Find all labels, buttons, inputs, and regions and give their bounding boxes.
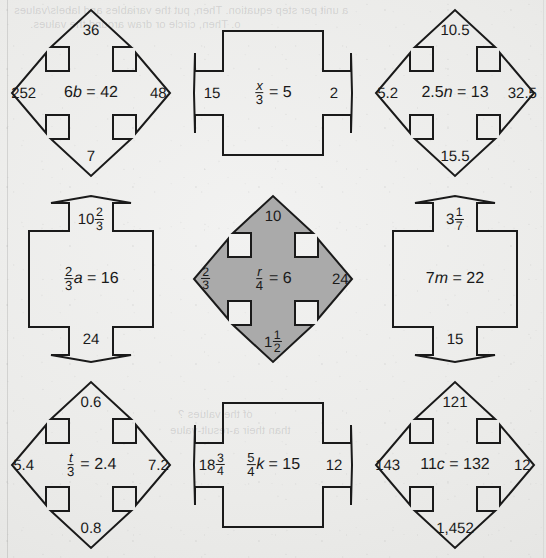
equation-label: r4 = 6 [254, 265, 291, 293]
arrow-value-left: 23 [201, 266, 211, 292]
equation-coefficient: 11 [420, 456, 437, 473]
grid-cell-1: x3 = 5152 [182, 0, 364, 186]
worksheet-page: a unit per step equation. Then, put the … [0, 0, 546, 558]
fraction-denominator: 2 [273, 342, 282, 355]
fraction-numerator: 2 [64, 265, 73, 279]
arrow-value-bottom: 15 [447, 331, 464, 346]
figure-grid: 6b = 4236252487x3 = 51522.5n = 1310.55.2… [0, 0, 546, 558]
arrow-value-right: 7.2 [148, 458, 169, 473]
fraction-denominator: 4 [255, 279, 264, 292]
equation-label: 2.5n = 13 [421, 85, 488, 101]
fraction-numerator: t [68, 451, 74, 465]
figure-7m-22[interactable]: 7m = 2231715 [364, 186, 546, 372]
fraction-denominator: 7 [455, 219, 464, 232]
equation-coefficient: 2.5 [421, 84, 443, 101]
fraction-denominator: 4 [246, 465, 255, 478]
figure-11c-132[interactable]: 11c = 132121143121,452 [364, 372, 546, 558]
arrow-value-top: 10.5 [440, 22, 469, 37]
grid-cell-2: 2.5n = 1310.55.232.515.5 [364, 0, 546, 186]
arrow-value-left: 252 [11, 86, 36, 101]
equation-result: 42 [100, 84, 118, 101]
equation-label: 7m = 22 [426, 271, 484, 287]
grid-cell-6: t3 = 2.40.65.47.20.8 [0, 372, 182, 558]
figure-2p5n-13[interactable]: 2.5n = 1310.55.232.515.5 [364, 0, 546, 186]
fraction-numerator: 2 [201, 265, 210, 279]
equation-relation: = [265, 84, 283, 101]
fraction: 54 [246, 451, 255, 479]
figure-two-thirds-a-16[interactable]: 23a = 16102324 [0, 186, 182, 372]
equation-relation: = [83, 270, 101, 287]
equation-result: 6 [283, 270, 292, 287]
arrow-value-top: 10 [265, 208, 282, 223]
equation-variable: a [74, 270, 83, 287]
arrow-value-right: 32.5 [508, 86, 537, 101]
whole-number: 3 [446, 212, 454, 227]
grid-cell-5: 7m = 2231715 [364, 186, 546, 372]
arrow-value-bottom: 112 [264, 329, 282, 355]
equation-variable: c [437, 456, 445, 473]
arrow-value-top: 36 [83, 22, 100, 37]
equation-relation: = [82, 84, 100, 101]
equation-label: x3 = 5 [254, 79, 291, 107]
arrow-value-bottom: 24 [83, 331, 100, 346]
equation-result: 5 [283, 84, 292, 101]
fraction: 34 [216, 451, 225, 477]
equation-result: 13 [471, 84, 489, 101]
arrow-value-top: 1023 [78, 206, 105, 232]
mixed-number: 317 [446, 206, 464, 232]
arrow-value-bottom: 15.5 [440, 149, 469, 164]
fraction: 23 [201, 265, 210, 291]
fraction-numerator: 1 [273, 329, 282, 343]
equation-result: 22 [466, 270, 484, 287]
arrow-value-top: 0.6 [81, 394, 102, 409]
grid-cell-0: 6b = 4236252487 [0, 0, 182, 186]
arrow-value-right: 2 [330, 86, 338, 101]
figure-five-fourths-k-15[interactable]: 54k = 15183412 [182, 372, 364, 558]
fraction-denominator: 3 [64, 279, 73, 292]
fraction: 12 [273, 329, 282, 355]
grid-cell-4: r4 = 6102324112 [182, 186, 364, 372]
fraction-denominator: 3 [95, 219, 104, 232]
fraction: 23 [64, 265, 73, 293]
equation-fraction: t3 [66, 451, 75, 479]
equation-fraction: r4 [255, 265, 264, 293]
arrow-value-right: 12 [514, 458, 531, 473]
arrow-value-bottom: 1,452 [436, 521, 474, 536]
arrow-value-right: 12 [326, 458, 343, 473]
arrow-value-left: 143 [375, 458, 400, 473]
arrow-value-top: 121 [442, 394, 467, 409]
equation-relation: = [445, 456, 463, 473]
arrow-value-right: 24 [332, 272, 349, 287]
mixed-number: 112 [264, 329, 282, 355]
fraction: 17 [455, 206, 464, 232]
equation-relation: = [265, 270, 283, 287]
equation-relation: = [448, 270, 466, 287]
equation-relation: = [453, 84, 471, 101]
equation-variable: n [444, 84, 453, 101]
figure-6b-42[interactable]: 6b = 4236252487 [0, 0, 182, 186]
whole-number: 10 [78, 212, 95, 227]
equation-label: 23a = 16 [63, 265, 118, 293]
figure-r-over-4-6[interactable]: r4 = 6102324112 [182, 186, 364, 372]
arrow-value-bottom: 0.8 [81, 521, 102, 536]
equation-coefficient: 6 [64, 84, 73, 101]
grid-cell-3: 23a = 16102324 [0, 186, 182, 372]
equation-label: 11c = 132 [420, 457, 490, 473]
fraction: 23 [95, 206, 104, 232]
arrow-value-left: 5.2 [377, 86, 398, 101]
whole-number: 1 [264, 335, 272, 350]
fraction-numerator: r [256, 265, 262, 279]
equation-result: 2.4 [94, 456, 116, 473]
arrow-value-left: 1834 [199, 452, 226, 478]
grid-cell-7: 54k = 15183412 [182, 372, 364, 558]
fraction-numerator: 5 [246, 451, 255, 465]
equation-label: t3 = 2.4 [66, 451, 117, 479]
fraction-denominator: 3 [66, 465, 75, 478]
equation-relation: = [264, 456, 282, 473]
arrow-value-left: 15 [204, 86, 221, 101]
figure-t-over-3-2p4[interactable]: t3 = 2.40.65.47.20.8 [0, 372, 182, 558]
arrow-value-top: 317 [446, 206, 464, 232]
figure-x-over-3-5[interactable]: x3 = 5152 [182, 0, 364, 186]
equation-result: 132 [463, 456, 490, 473]
fraction-numerator: x [255, 79, 264, 93]
